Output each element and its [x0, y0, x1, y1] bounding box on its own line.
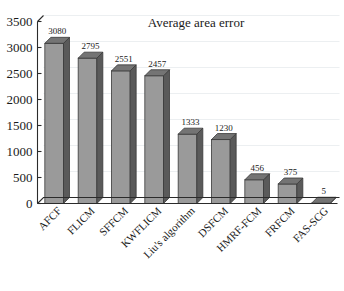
- bar-column: [45, 37, 70, 203]
- bar-value-label: 3080: [48, 26, 67, 36]
- bar-front-face: [78, 58, 97, 203]
- bar-side-face: [230, 134, 236, 204]
- bar-front-face: [45, 43, 64, 203]
- bar-value-label: 375: [284, 167, 298, 177]
- bar-value-label: 1333: [182, 117, 201, 127]
- bar-front-face: [145, 76, 164, 204]
- bar-value-label: 2551: [115, 54, 133, 64]
- y-tick-label: 0: [26, 196, 33, 211]
- bar-value-label: 1230: [215, 123, 234, 133]
- bar-column: [178, 128, 203, 203]
- bar-value-label: 2795: [82, 41, 101, 51]
- bar-front-face: [245, 180, 264, 204]
- y-tick-label: 3000: [7, 40, 33, 55]
- bar-column: [212, 134, 237, 204]
- chart-title: Average area error: [148, 15, 245, 30]
- bar-column: [145, 70, 170, 204]
- bar-front-face: [278, 184, 297, 204]
- bar-side-face: [164, 70, 170, 204]
- y-tick-label: 2000: [7, 92, 33, 107]
- bar-column: [245, 174, 270, 204]
- bar-side-face: [197, 128, 203, 203]
- bar-column: [78, 52, 103, 203]
- bar-column: [278, 178, 303, 204]
- y-tick-label: 1000: [7, 144, 33, 159]
- bar-value-label: 5: [322, 186, 327, 196]
- bar-front-face: [112, 71, 131, 204]
- bar-column: [112, 65, 137, 204]
- bar-value-label: 456: [250, 163, 264, 173]
- y-tick-label: 2500: [7, 66, 33, 81]
- bar-front-face: [178, 134, 197, 203]
- bar-side-face: [130, 65, 136, 204]
- bar-value-label: 2457: [148, 59, 167, 69]
- average-area-error-bar-chart: 0500100015002000250030003500 AFCFFLICMSF…: [0, 0, 344, 291]
- chart-container: 0500100015002000250030003500 AFCFFLICMSF…: [0, 0, 344, 291]
- bar-side-face: [64, 37, 70, 203]
- bar-front-face: [212, 140, 231, 204]
- y-tick-label: 3500: [7, 14, 33, 29]
- bar-side-face: [97, 52, 103, 203]
- y-tick-label: 500: [13, 170, 33, 185]
- y-tick-label: 1500: [7, 118, 33, 133]
